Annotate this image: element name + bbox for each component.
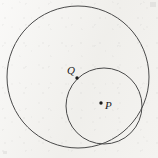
point-p-label: P [105, 100, 112, 111]
geometry-figure: Q P [0, 0, 158, 158]
point-q-label: Q [67, 65, 75, 76]
point-p-dot [99, 101, 102, 104]
figure-canvas [0, 0, 158, 158]
point-q-dot [75, 76, 78, 79]
